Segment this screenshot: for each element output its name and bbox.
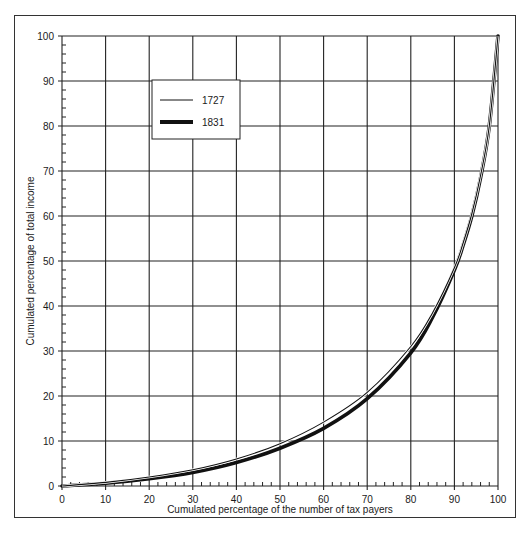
legend-box [152, 80, 240, 139]
y-tick-label: 100 [37, 31, 54, 42]
legend: 1727 1831 [152, 80, 240, 139]
y-tick-label: 20 [43, 391, 55, 402]
x-tick-label: 100 [490, 494, 507, 505]
y-tick-label: 40 [43, 301, 55, 312]
y-tick-label: 90 [43, 76, 55, 87]
minor-ticks [62, 45, 489, 486]
x-tick-label: 20 [144, 494, 156, 505]
y-tick-labels: 0102030405060708090100 [37, 31, 54, 492]
x-tick-label: 0 [59, 494, 65, 505]
y-tick-label: 60 [43, 211, 55, 222]
x-tick-label: 90 [449, 494, 461, 505]
y-tick-label: 0 [48, 481, 54, 492]
x-tick-label: 80 [405, 494, 417, 505]
grid-lines [58, 36, 498, 490]
y-tick-label: 10 [43, 436, 55, 447]
y-axis-title: Cumulated percentage of total income [25, 176, 36, 345]
y-tick-label: 80 [43, 121, 55, 132]
y-tick-label: 30 [43, 346, 55, 357]
lorenz-chart: 1727 1831 0102030405060708090100 0102030… [0, 0, 525, 546]
x-tick-label: 10 [100, 494, 112, 505]
legend-label-1727: 1727 [202, 95, 225, 106]
x-axis-title: Cumulated percentage of the number of ta… [167, 504, 393, 515]
y-tick-label: 50 [43, 256, 55, 267]
y-tick-label: 70 [43, 166, 55, 177]
legend-label-1831: 1831 [202, 117, 225, 128]
